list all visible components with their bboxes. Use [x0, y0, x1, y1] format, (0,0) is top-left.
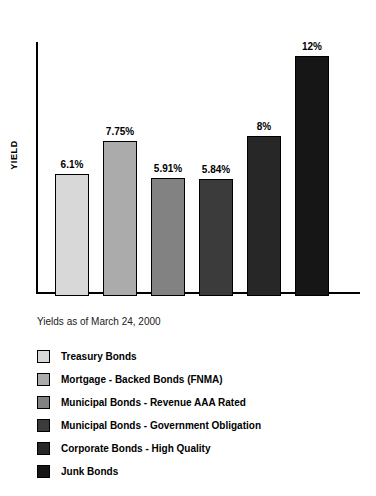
bar-group: 6.1% [55, 174, 89, 296]
y-axis-line [36, 42, 38, 293]
legend-label: Mortgage - Backed Bonds (FNMA) [61, 374, 223, 385]
chart-legend: Treasury BondsMortgage - Backed Bonds (F… [37, 345, 357, 483]
legend-swatch [37, 396, 50, 409]
legend-item: Municipal Bonds - Government Obligation [37, 414, 357, 437]
bar-group: 7.75% [103, 141, 137, 296]
legend-swatch [37, 419, 50, 432]
bar-group: 5.91% [151, 178, 185, 296]
legend-label: Corporate Bonds - High Quality [61, 443, 210, 454]
bar-value-label: 7.75% [106, 127, 134, 137]
legend-item: Municipal Bonds - Revenue AAA Rated [37, 391, 357, 414]
yield-bar-chart: YIELD 6.1%7.75%5.91%5.84%8%12% [0, 0, 376, 300]
legend-item: Mortgage - Backed Bonds (FNMA) [37, 368, 357, 391]
legend-label: Municipal Bonds - Government Obligation [61, 420, 261, 431]
bar-group: 5.84% [199, 179, 233, 296]
legend-item: Treasury Bonds [37, 345, 357, 368]
bar [295, 56, 329, 296]
legend-swatch [37, 350, 50, 363]
legend-label: Treasury Bonds [61, 351, 137, 362]
bar-value-label: 6.1% [61, 160, 84, 170]
legend-swatch [37, 442, 50, 455]
bar-value-label: 5.84% [202, 165, 230, 175]
bar [247, 136, 281, 296]
bar-value-label: 8% [257, 122, 271, 132]
bar-value-label: 12% [302, 42, 322, 52]
legend-swatch [37, 465, 50, 478]
bar [55, 174, 89, 296]
bar [199, 179, 233, 296]
bar-value-label: 5.91% [154, 164, 182, 174]
legend-item: Junk Bonds [37, 460, 357, 483]
bar-group: 8% [247, 136, 281, 296]
legend-swatch [37, 373, 50, 386]
bar-group: 12% [295, 56, 329, 296]
bar [151, 178, 185, 296]
legend-label: Junk Bonds [61, 466, 118, 477]
legend-label: Municipal Bonds - Revenue AAA Rated [61, 397, 246, 408]
chart-caption: Yields as of March 24, 2000 [37, 316, 161, 327]
legend-item: Corporate Bonds - High Quality [37, 437, 357, 460]
bar [103, 141, 137, 296]
y-axis-title: YIELD [9, 125, 19, 185]
